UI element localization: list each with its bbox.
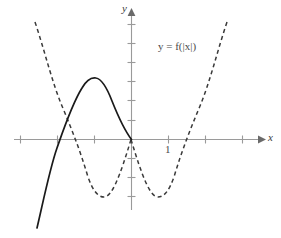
- solid-curve: [37, 78, 132, 228]
- y-axis-arrowhead: [128, 8, 136, 16]
- y-axis: [128, 8, 136, 210]
- x-axis: [14, 136, 266, 144]
- dashed-curve-left: [35, 22, 131, 197]
- x-axis-arrowhead: [258, 136, 266, 144]
- y-axis-label: y: [122, 2, 127, 14]
- x-tick-label-1: 1: [165, 143, 171, 155]
- figure-canvas: x y 1 y = f(|x|): [0, 0, 281, 238]
- x-axis-label: x: [268, 131, 273, 143]
- curve-equation-label: y = f(|x|): [158, 40, 196, 52]
- plot-svg: [0, 0, 281, 238]
